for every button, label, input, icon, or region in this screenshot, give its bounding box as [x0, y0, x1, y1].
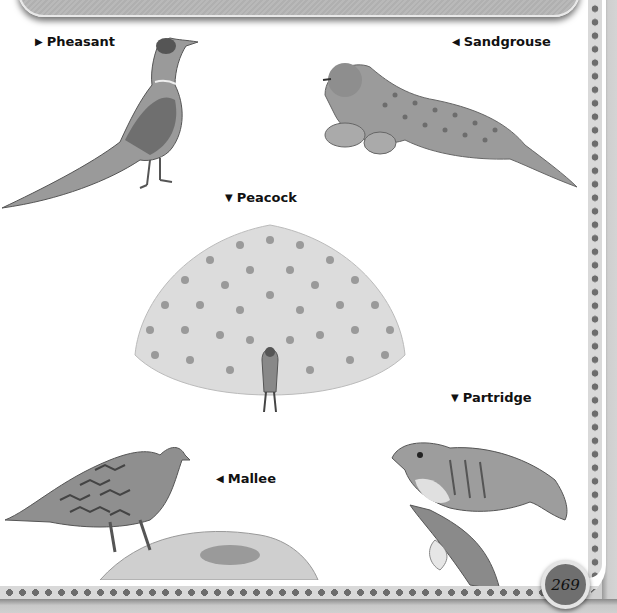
- bird-label-mallee: ◀ Mallee: [216, 471, 276, 486]
- book-page: ▶ Pheasant ◀ Sandgrouse ▼ Peacock ▼ Part…: [0, 0, 606, 599]
- mallee-fowl-illustration: [0, 440, 320, 580]
- arrow-left-icon: ◀: [216, 473, 224, 484]
- peacock-illustration: [130, 220, 410, 420]
- bird-name: Sandgrouse: [464, 34, 551, 49]
- bird-label-peacock: ▼ Peacock: [225, 190, 297, 205]
- bird-name: Partridge: [463, 390, 532, 405]
- arrow-right-icon: ▶: [35, 36, 43, 47]
- page-bottom-shadow: [0, 599, 617, 613]
- bird-label-pheasant: ▶ Pheasant: [35, 34, 115, 49]
- bird-name: Peacock: [237, 190, 297, 205]
- bird-name: Pheasant: [47, 34, 115, 49]
- arrow-down-icon: ▼: [451, 392, 459, 403]
- bird-label-sandgrouse: ◀ Sandgrouse: [452, 34, 551, 49]
- arrow-down-icon: ▼: [225, 192, 233, 203]
- bird-name: Mallee: [228, 471, 276, 486]
- dotted-border-right: [588, 0, 602, 578]
- partridge-illustration: [390, 430, 575, 590]
- top-banner: [18, 0, 580, 17]
- sandgrouse-illustration: [315, 55, 580, 195]
- arrow-left-icon: ◀: [452, 36, 460, 47]
- bird-label-partridge: ▼ Partridge: [451, 390, 532, 405]
- page-number-badge: 269: [541, 560, 590, 609]
- dotted-border-bottom: [0, 586, 600, 599]
- pheasant-illustration: [0, 30, 210, 215]
